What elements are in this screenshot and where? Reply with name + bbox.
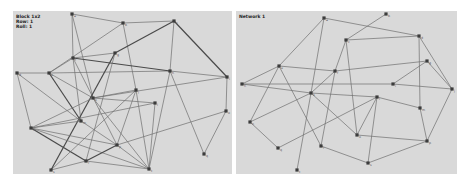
graph-edge (419, 36, 452, 89)
node-label: a (326, 18, 328, 22)
graph-edge (346, 14, 386, 40)
network-graph-canvas: abcdefghijklmnopqrstabcdefghijklmnopqrst (0, 0, 470, 184)
graph-edge (117, 90, 136, 145)
graph-edge (377, 97, 420, 108)
node-label: k (95, 98, 97, 102)
node-label: o (359, 135, 361, 139)
graph-edge (311, 93, 377, 97)
graph-edge (278, 97, 377, 148)
graph-edge (149, 103, 155, 169)
node-label: l (379, 97, 380, 101)
graph-edge (250, 122, 278, 148)
graph-edge (324, 18, 419, 36)
graph-edge (17, 73, 81, 121)
graph-edge (226, 77, 227, 111)
node-label: d (421, 36, 423, 40)
graph-edge (123, 23, 136, 90)
graph-edge (420, 108, 427, 141)
node-label: l (157, 103, 158, 107)
graph-edge (311, 93, 357, 135)
node-label: e (51, 73, 53, 77)
graph-edge (31, 128, 149, 169)
node-label: c (348, 40, 350, 44)
graph-edge (311, 18, 324, 93)
graph-edge (242, 84, 311, 93)
node-label: j (137, 90, 139, 94)
node-label: o (228, 111, 230, 115)
graph-edge (170, 21, 174, 71)
node-label: k (313, 93, 315, 97)
graph-edge (204, 111, 226, 154)
node-label: h (244, 84, 246, 88)
graph-edge (17, 73, 31, 128)
node-label: e (281, 66, 283, 70)
graph-edge (279, 66, 335, 71)
graph-edge (51, 90, 136, 170)
graph-edge (117, 111, 226, 145)
graph-edge (427, 89, 452, 141)
node-label: s (370, 163, 372, 167)
graph-edge (72, 14, 73, 58)
node-label: a (74, 14, 76, 18)
node-label: n (252, 122, 254, 126)
graph-edge (427, 61, 452, 89)
graph-edge (368, 97, 377, 163)
graph-edge (123, 21, 174, 23)
graph-right: abcdefghijklmnopqrst (240, 12, 455, 174)
graph-edge (49, 58, 73, 73)
graph-edge (393, 84, 452, 89)
graph-edge (174, 21, 227, 77)
node-label: r (323, 146, 325, 150)
node-label: j (453, 89, 455, 93)
graph-edge (31, 103, 155, 128)
node-label: i (395, 84, 396, 88)
node-label: t (151, 169, 153, 173)
graph-edge (93, 98, 149, 169)
graph-edge (86, 145, 117, 161)
node-label: b (125, 23, 127, 27)
node-label: p (119, 145, 121, 149)
node-label: b (388, 14, 390, 18)
graph-edge (73, 58, 170, 71)
graph-edge (250, 93, 311, 122)
graph-edge (72, 14, 123, 23)
graph-left: abcdefghijklmnopqrst (15, 12, 230, 174)
node-label: f (337, 71, 339, 75)
node-label: c (176, 21, 178, 25)
graph-edge (335, 40, 346, 71)
node-label: p (429, 141, 431, 145)
node-label: g (429, 61, 431, 65)
graph-edge (49, 73, 81, 121)
graph-edge (250, 66, 279, 122)
graph-edge (321, 146, 368, 163)
graph-edge (93, 90, 136, 98)
graph-edge (357, 135, 427, 141)
node-label: m (422, 108, 425, 112)
node-label: q (206, 154, 208, 158)
node-label: h (172, 71, 174, 75)
graph-edge (242, 66, 279, 84)
graph-edge (419, 36, 420, 108)
graph-edge (51, 53, 115, 170)
graph-edge (149, 71, 170, 169)
node-label: d (19, 73, 21, 77)
node-label: i (229, 77, 230, 81)
node-label: n (33, 128, 35, 132)
graph-edge (346, 40, 357, 135)
graph-edge (279, 66, 321, 146)
graph-edge (73, 53, 115, 58)
node-label: s (53, 170, 55, 174)
graph-edge (93, 77, 227, 98)
node-label: q (280, 148, 282, 152)
graph-edge (346, 36, 419, 40)
graph-edge (368, 141, 427, 163)
graph-edge (170, 71, 227, 77)
graph-edge (357, 97, 377, 135)
node-label: g (117, 53, 119, 57)
node-label: m (83, 121, 86, 125)
node-label: t (299, 170, 301, 174)
graph-edge (49, 73, 93, 98)
